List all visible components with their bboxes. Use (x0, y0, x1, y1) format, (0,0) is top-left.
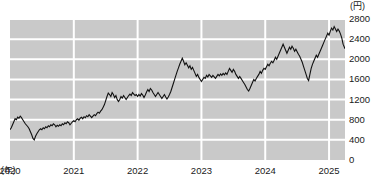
y-tick-label: 2800 (349, 14, 370, 24)
vertical-gridlines (74, 19, 329, 160)
y-tick-label: 1200 (349, 95, 370, 105)
x-tick-label: 2025 (309, 165, 349, 176)
price-series-line (10, 27, 345, 140)
y-tick-label: 2400 (349, 34, 370, 44)
x-tick-label: 2021 (54, 165, 94, 176)
x-tick-label: 2022 (118, 165, 158, 176)
plot-area (10, 19, 345, 160)
horizontal-gridlines (10, 19, 345, 140)
x-axis-unit-label: (年) (1, 165, 16, 176)
y-tick-label: 0 (349, 155, 354, 165)
x-tick-label: 2024 (245, 165, 285, 176)
y-tick-label: 1600 (349, 74, 370, 84)
y-tick-label: 400 (349, 135, 365, 145)
y-tick-label: 800 (349, 115, 365, 125)
y-axis-unit-label: (円) (350, 1, 365, 11)
plot-svg (10, 19, 345, 160)
y-tick-label: 2000 (349, 54, 370, 64)
stock-price-line-chart: (円) 280024002000160012008004000 20202021… (0, 0, 382, 187)
x-tick-label: 2023 (181, 165, 221, 176)
